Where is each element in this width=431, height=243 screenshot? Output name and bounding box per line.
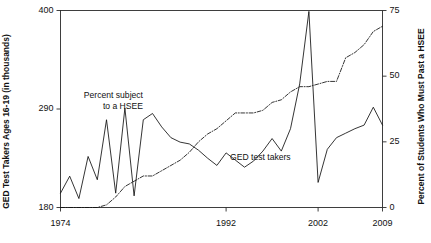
plot-area — [0, 0, 431, 243]
x-tick-label: 1992 — [203, 219, 249, 228]
chart-figure: GED Test Takers Ages 16-19 (in thousands… — [0, 0, 431, 243]
x-tick-label: 2002 — [295, 219, 341, 228]
hsee-annotation-line1: Percent subject — [33, 90, 143, 101]
y-tick-label-right: 25 — [390, 137, 424, 146]
y-tick-label-left: 400 — [20, 6, 54, 15]
x-tick-label: 1974 — [38, 219, 84, 228]
x-tick-label: 2009 — [360, 219, 406, 228]
y-tick-label-right: 75 — [390, 6, 424, 15]
hsee-annotation: Percent subject to a HSEE — [33, 90, 143, 112]
y-tick-label-left: 180 — [20, 203, 54, 212]
y-tick-label-right: 0 — [390, 203, 424, 212]
ged-annotation-line1: GED test takers — [230, 152, 291, 163]
hsee-annotation-line2: to a HSEE — [33, 101, 143, 112]
y-tick-label-right: 50 — [390, 71, 424, 80]
ged-annotation: GED test takers — [230, 152, 291, 163]
left-axis-title: GED Test Takers Ages 16-19 (in thousands… — [2, 0, 16, 243]
